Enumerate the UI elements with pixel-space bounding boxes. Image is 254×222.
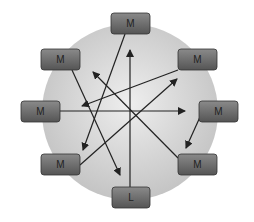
node-label: M bbox=[36, 106, 44, 117]
node-top-left: M bbox=[41, 49, 80, 70]
node-label: M bbox=[56, 159, 64, 170]
diagram-canvas: MMMMMMML bbox=[0, 0, 254, 222]
node-bottom-right: M bbox=[178, 154, 217, 175]
node-right: M bbox=[199, 101, 238, 122]
node-bottom-left: M bbox=[41, 154, 80, 175]
node-bottom: L bbox=[112, 187, 150, 208]
node-label: M bbox=[214, 106, 222, 117]
node-label: M bbox=[193, 159, 201, 170]
node-left: M bbox=[21, 101, 60, 122]
node-label: M bbox=[56, 54, 64, 65]
node-label: M bbox=[193, 54, 201, 65]
node-label: M bbox=[126, 18, 134, 29]
node-top-right: M bbox=[178, 49, 217, 70]
node-label: L bbox=[128, 192, 134, 203]
node-top: M bbox=[111, 13, 150, 34]
